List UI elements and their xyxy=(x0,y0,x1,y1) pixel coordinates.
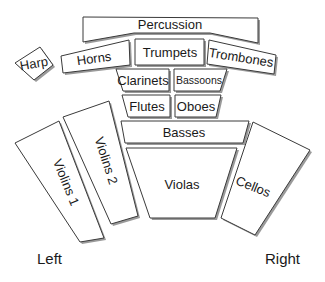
section-basses: Basses xyxy=(121,121,251,145)
label-flutes: Flutes xyxy=(129,99,165,114)
label-trumpets: Trumpets xyxy=(143,45,198,60)
orchestra-diagram: Percussion Harp Horns Trumpets Trombones… xyxy=(0,0,325,282)
section-trumpets: Trumpets xyxy=(135,39,206,67)
orientation-left-label: Left xyxy=(37,250,63,267)
section-harp: Harp xyxy=(15,47,55,82)
section-violas: Violas xyxy=(126,148,239,220)
section-flutes: Flutes xyxy=(122,95,172,119)
label-clarinets: Clarinets xyxy=(117,73,169,88)
label-violas: Violas xyxy=(164,177,200,192)
label-oboes: Oboes xyxy=(177,99,216,114)
section-clarinets: Clarinets xyxy=(116,69,171,93)
section-bassoons: Bassoons xyxy=(174,69,229,93)
label-bassoons: Bassoons xyxy=(176,74,222,86)
label-percussion: Percussion xyxy=(138,17,202,32)
section-oboes: Oboes xyxy=(175,95,223,119)
orientation-right-label: Right xyxy=(265,250,301,267)
label-basses: Basses xyxy=(163,125,206,140)
